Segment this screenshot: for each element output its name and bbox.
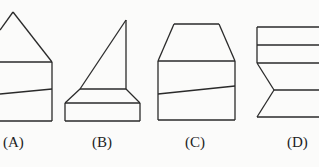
figure-d-notched-shape — [257, 27, 319, 117]
figure-b-sail-shape — [65, 20, 140, 121]
figure-c-trapezoid-shape — [158, 24, 235, 120]
figure-edge — [0, 12, 13, 30]
figure-edge — [257, 63, 274, 90]
option-label-d: (D) — [287, 134, 308, 151]
figure-edge — [0, 89, 52, 94]
option-label-b: (B) — [92, 134, 112, 151]
figure-edge — [257, 90, 274, 117]
figure-edge — [219, 24, 235, 61]
option-label-a: (A) — [3, 134, 24, 151]
figure-edge — [158, 24, 174, 61]
figure-edge — [158, 86, 235, 94]
figure-a-house-shape — [0, 12, 52, 121]
figure-edge — [65, 89, 80, 103]
figure-edge — [80, 20, 126, 89]
option-label-c: (C) — [185, 134, 205, 151]
figure-edge — [126, 89, 140, 103]
figure-edge — [13, 12, 52, 62]
figure-canvas — [0, 0, 319, 167]
